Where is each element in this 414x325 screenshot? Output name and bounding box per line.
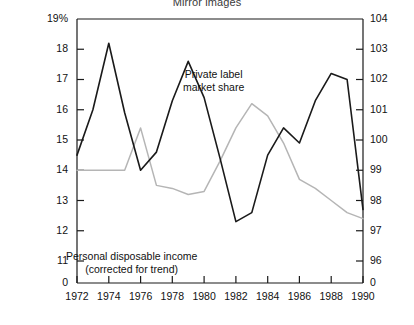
chart-container: Mirror images	[0, 0, 414, 325]
left-axis-label-13: 13	[2, 194, 68, 206]
left-axis-label-15: 15	[2, 133, 68, 145]
annotation-private-label-market-share: Private label market share	[183, 68, 244, 93]
left-axis-label-12: 12	[2, 224, 68, 236]
right-axis-label-104: 104	[370, 12, 388, 24]
annotation-pdi-line1: Personal disposable income	[66, 250, 197, 263]
right-axis-label-100: 100	[370, 133, 388, 145]
right-axis-label-101: 101	[370, 103, 388, 115]
right-axis-label-96: 96	[370, 254, 382, 266]
right-axis-label-98: 98	[370, 194, 382, 206]
left-axis-label-zero: 0	[2, 276, 68, 288]
x-axis-label-1990: 1990	[343, 290, 383, 302]
right-axis-label-zero: 0	[370, 276, 376, 288]
annotation-pdi-line2: (corrected for trend)	[66, 263, 197, 276]
x-axis-ticks	[77, 276, 363, 283]
annotation-private-label-line2: market share	[183, 81, 244, 94]
left-axis-label-17: 17	[2, 72, 68, 84]
right-axis-label-103: 103	[370, 42, 388, 54]
right-axis-label-97: 97	[370, 224, 382, 236]
left-axis-ticks	[77, 49, 84, 261]
right-axis-label-99: 99	[370, 163, 382, 175]
left-axis-label-11: 11	[2, 254, 68, 266]
annotation-private-label-line1: Private label	[183, 68, 244, 81]
annotation-personal-disposable-income: Personal disposable income (corrected fo…	[66, 250, 197, 275]
left-axis-label-16: 16	[2, 103, 68, 115]
left-axis-label-18: 18	[2, 42, 68, 54]
left-axis-label-14: 14	[2, 163, 68, 175]
right-axis-label-102: 102	[370, 72, 388, 84]
left-axis-label-19: 19%	[2, 12, 68, 24]
axis-frame	[77, 19, 363, 283]
